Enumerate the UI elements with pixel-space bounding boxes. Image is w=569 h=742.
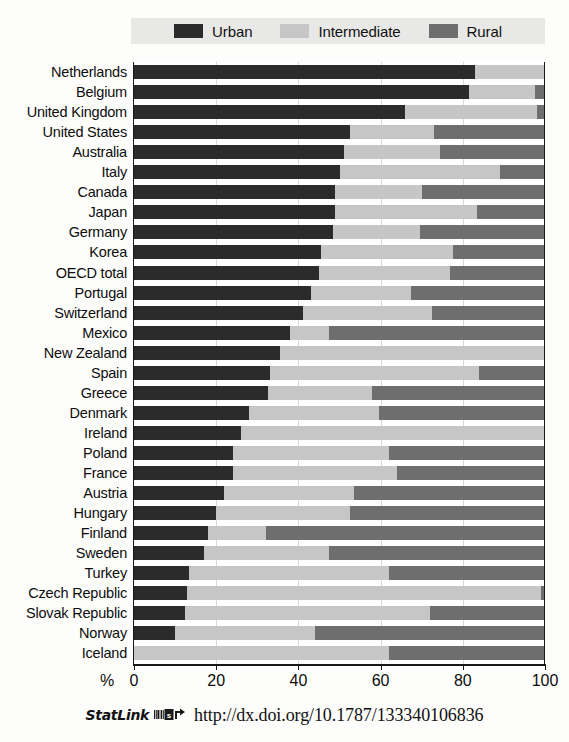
bar-row (134, 326, 545, 340)
bar-segment-rural (541, 586, 545, 600)
bar-segment-rural (453, 245, 545, 259)
category-label: France (0, 466, 127, 480)
bar-segment-urban (134, 506, 216, 520)
category-label: New Zealand (0, 346, 127, 360)
bar-segment-urban (134, 566, 189, 580)
x-tick-0 (134, 664, 135, 670)
category-label: Australia (0, 145, 127, 159)
category-label: OECD total (0, 266, 127, 280)
x-tick-20 (216, 664, 217, 670)
bar-segment-urban (134, 266, 319, 280)
bar-row (134, 225, 545, 239)
bar-segment-intermediate (134, 646, 389, 660)
bar-segment-rural (389, 646, 545, 660)
bar-segment-urban (134, 366, 270, 380)
bar-segment-rural (420, 225, 545, 239)
bar-segment-intermediate (344, 145, 441, 159)
bar-segment-intermediate (311, 286, 412, 300)
bar-segment-intermediate (335, 205, 477, 219)
bar-segment-rural (537, 105, 545, 119)
legend-entry-rural: Rural (429, 23, 502, 40)
bar-row (134, 406, 545, 420)
bar-segment-rural (450, 266, 545, 280)
bar-segment-urban (134, 306, 303, 320)
bar-segment-rural (535, 85, 545, 99)
bar-row (134, 105, 545, 119)
bar-segment-rural (266, 526, 545, 540)
category-label: Hungary (0, 506, 127, 520)
bar-row (134, 125, 545, 139)
x-tick-label-100: 100 (532, 672, 559, 690)
bar-row (134, 286, 545, 300)
category-label: Spain (0, 366, 127, 380)
bar-segment-intermediate (175, 626, 315, 640)
bar-segment-intermediate (319, 266, 451, 280)
x-tick-label-20: 20 (207, 672, 225, 690)
bar-segment-intermediate (303, 306, 432, 320)
bar-segment-intermediate (233, 446, 389, 460)
legend-entry-intermediate: Intermediate (280, 23, 400, 40)
plot-area (134, 62, 545, 664)
x-tick-label-40: 40 (289, 672, 307, 690)
bar-segment-intermediate (333, 225, 419, 239)
category-label: Finland (0, 526, 127, 540)
bar-segment-rural (350, 506, 545, 520)
category-axis-labels: NetherlandsBelgiumUnited KingdomUnited S… (0, 62, 127, 664)
bar-segment-intermediate (233, 466, 397, 480)
x-axis-tick-labels: 020406080100 (0, 672, 569, 696)
bar-segment-intermediate (270, 366, 480, 380)
bar-segment-intermediate (268, 386, 373, 400)
category-label: Germany (0, 225, 127, 239)
legend-label-intermediate: Intermediate (318, 23, 400, 40)
x-tick-label-80: 80 (454, 672, 472, 690)
statlink-barcode-icon: s (154, 707, 188, 725)
bar-row (134, 165, 545, 179)
bar-segment-urban (134, 185, 335, 199)
bar-segment-intermediate (469, 85, 535, 99)
category-label: Sweden (0, 546, 127, 560)
x-tick-60 (381, 664, 382, 670)
bar-segment-urban (134, 225, 333, 239)
category-label: Turkey (0, 566, 127, 580)
x-tick-80 (463, 664, 464, 670)
bar-segment-rural (479, 366, 545, 380)
bar-segment-rural (315, 626, 545, 640)
bar-segment-urban (134, 165, 340, 179)
bar-row (134, 386, 545, 400)
bar-segment-urban (134, 326, 290, 340)
bar-row (134, 266, 545, 280)
bar-segment-rural (372, 386, 545, 400)
bar-row (134, 606, 545, 620)
category-label: Norway (0, 626, 127, 640)
bar-segment-rural (440, 145, 545, 159)
category-label: Poland (0, 446, 127, 460)
statlink-url[interactable]: http://dx.doi.org/10.1787/133340106836 (194, 705, 483, 726)
bar-segment-urban (134, 145, 344, 159)
bar-row (134, 85, 545, 99)
bar-segment-urban (134, 466, 233, 480)
bar-segment-rural (329, 546, 545, 560)
legend-swatch-rural (429, 24, 458, 38)
bar-segment-rural (389, 566, 545, 580)
category-label: Portugal (0, 286, 127, 300)
svg-text:s: s (167, 711, 172, 720)
bar-segment-intermediate (405, 105, 537, 119)
category-label: Denmark (0, 406, 127, 420)
bar-segment-intermediate (340, 165, 500, 179)
statlink-label: StatLink (86, 707, 150, 723)
category-label: Greece (0, 386, 127, 400)
bar-segment-intermediate (204, 546, 329, 560)
bar-segment-intermediate (208, 526, 266, 540)
chart-container: UrbanIntermediateRural NetherlandsBelgiu… (0, 0, 569, 742)
category-label: Italy (0, 165, 127, 179)
bar-row (134, 626, 545, 640)
bar-segment-intermediate (321, 245, 453, 259)
bar-row (134, 306, 545, 320)
bar-segment-urban (134, 626, 175, 640)
bar-segment-rural (329, 326, 545, 340)
bar-segment-urban (134, 105, 405, 119)
bar-segment-intermediate (187, 586, 540, 600)
x-axis-line (133, 664, 546, 666)
bar-segment-urban (134, 125, 350, 139)
bar-row (134, 426, 545, 440)
